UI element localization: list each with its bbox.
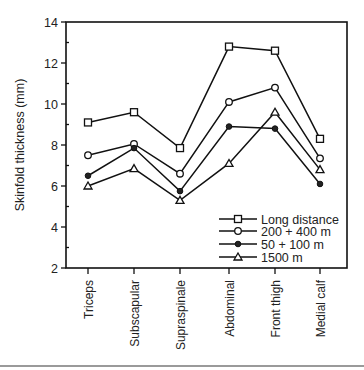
y-axis-label: Skinfold thickness (mm) [13,79,27,212]
data-point-marker [226,124,232,130]
series-line [88,88,320,174]
y-tick-label: 14 [44,16,58,30]
line-chart: 2468101214Skinfold thickness (mm)Triceps… [0,0,364,370]
series-line [88,112,320,200]
series-line [88,47,320,148]
data-point-marker [85,119,92,126]
data-point-marker [177,145,184,152]
data-point-marker [85,152,92,159]
legend-marker [235,228,242,235]
data-point-marker [272,47,279,54]
y-tick-label: 4 [51,221,58,235]
y-tick-label: 10 [44,98,58,112]
data-point-marker [226,43,233,50]
x-tick-label: Supraspinale [174,280,188,350]
data-point-marker [177,170,184,177]
x-tick-label: Abdominal [223,280,237,337]
legend-label: 50 + 100 m [261,238,324,252]
data-point-marker [271,108,279,115]
data-point-marker [131,145,137,151]
data-point-marker [317,155,324,162]
data-point-marker [317,135,324,142]
data-point-marker [85,173,91,179]
legend-marker [235,241,241,247]
data-point-marker [177,188,183,194]
data-point-marker [130,165,138,172]
data-point-marker [272,126,278,132]
legend-label: 1500 m [261,251,303,265]
y-tick-label: 6 [51,180,58,194]
y-tick-label: 2 [51,262,58,276]
data-point-marker [272,84,279,91]
x-tick-label: Medial calf [314,279,328,337]
x-tick-label: Front thigh [269,280,283,337]
y-tick-label: 12 [44,57,58,71]
x-tick-label: Triceps [82,280,96,319]
data-point-marker [131,109,138,116]
data-point-marker [317,181,323,187]
page-divider [0,365,364,367]
y-tick-label: 8 [51,139,58,153]
data-point-marker [226,99,233,106]
x-tick-label: Subscapular [128,280,142,347]
legend-marker [235,216,242,223]
legend-label: 200 + 400 m [261,225,331,239]
